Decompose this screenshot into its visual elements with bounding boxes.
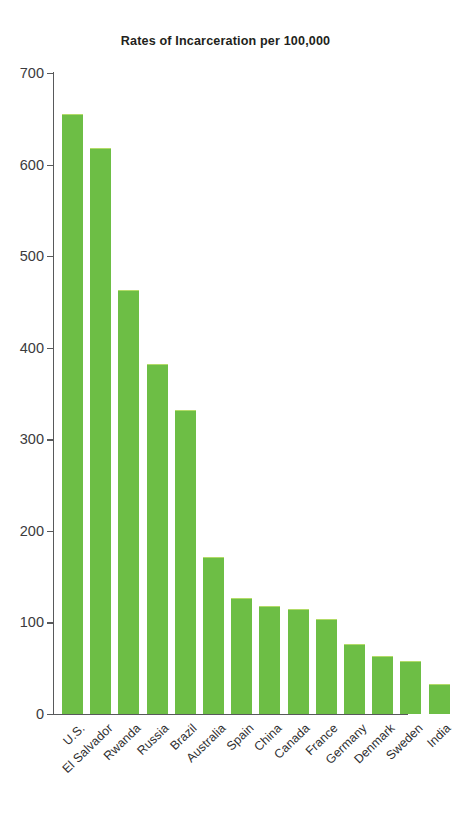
y-axis-tick-label: 100 — [0, 614, 44, 630]
chart-title: Rates of Incarceration per 100,000 — [0, 34, 451, 48]
bar[interactable] — [118, 290, 139, 714]
y-axis-tick-mark — [47, 714, 54, 715]
bar[interactable] — [147, 364, 168, 714]
y-axis-tick-label: 300 — [0, 431, 44, 447]
bar[interactable] — [288, 609, 309, 714]
bar[interactable] — [175, 410, 196, 714]
y-axis-tick-label: 0 — [0, 706, 44, 722]
bar[interactable] — [372, 656, 393, 714]
bar[interactable] — [316, 619, 337, 714]
y-axis-tick-mark — [47, 256, 54, 257]
bar[interactable] — [90, 148, 111, 714]
y-axis-tick-mark — [47, 622, 54, 623]
plot-area — [54, 73, 411, 714]
bar[interactable] — [62, 114, 83, 714]
bar[interactable] — [400, 661, 421, 714]
y-axis-tick-label: 500 — [0, 248, 44, 264]
y-axis-tick-label: 400 — [0, 340, 44, 356]
bar[interactable] — [344, 644, 365, 715]
y-axis-tick-mark — [47, 348, 54, 349]
y-axis-tick-mark — [47, 439, 54, 440]
y-axis-tick-mark — [47, 73, 54, 74]
bar[interactable] — [203, 557, 224, 714]
y-axis-tick-label: 700 — [0, 65, 44, 81]
bar[interactable] — [259, 606, 280, 714]
bar[interactable] — [429, 684, 450, 714]
x-axis-tick-label: Spain — [224, 721, 257, 753]
y-axis-tick-mark — [47, 165, 54, 166]
y-axis-tick-mark — [47, 531, 54, 532]
x-axis-tick-label: India — [424, 721, 453, 750]
bar[interactable] — [231, 598, 252, 714]
y-axis-tick-label: 600 — [0, 157, 44, 173]
y-axis-tick-label: 200 — [0, 523, 44, 539]
